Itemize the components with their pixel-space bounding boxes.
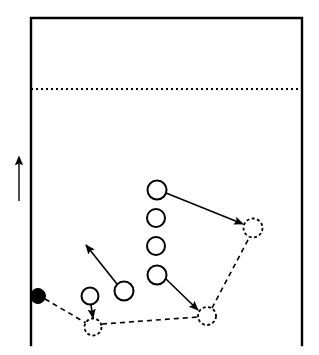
player-2	[147, 209, 165, 227]
target-position-1	[244, 219, 263, 238]
player-3	[147, 237, 165, 255]
player-4	[148, 266, 167, 285]
player-5	[115, 282, 134, 301]
diagram-root	[0, 0, 319, 355]
player-6	[82, 288, 99, 305]
target-position-3	[85, 319, 102, 336]
target-position-2	[198, 307, 216, 325]
play-diagram-canvas	[0, 0, 319, 355]
ball-marker	[31, 289, 46, 304]
canvas-background	[0, 0, 319, 355]
player-1	[148, 181, 167, 200]
